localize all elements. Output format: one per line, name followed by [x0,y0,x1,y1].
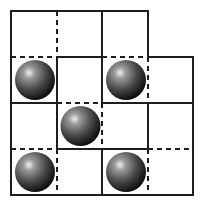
ball-piece-icon[interactable] [106,152,146,192]
grid-cell-r2-c2[interactable] [102,103,148,149]
grid-cell-r0-c2[interactable] [102,11,148,57]
grid-cell-r1-c1[interactable] [57,57,102,103]
grid-cell-r0-c0[interactable] [11,11,57,57]
ball-piece-icon[interactable] [15,60,55,100]
grid-cell-r0-c1[interactable] [57,11,102,57]
grid-cell-r1-c3[interactable] [148,57,193,103]
ball-piece-icon[interactable] [15,152,55,192]
ball-piece-icon[interactable] [61,106,101,146]
ball-piece-icon[interactable] [106,60,146,100]
grid-cell-r2-c0[interactable] [11,103,57,149]
puzzle-board [0,0,202,206]
grid-cell-r3-c1[interactable] [57,149,102,195]
grid-cell-r3-c3[interactable] [148,149,193,195]
grid-cell-r2-c3[interactable] [148,103,193,149]
